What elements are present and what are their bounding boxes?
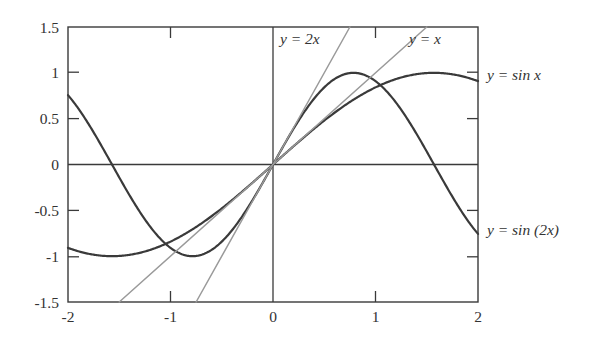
y-tick-label-6: -1.5	[34, 294, 59, 311]
x-tick-label-1: -1	[164, 308, 177, 325]
y-tick-label-4: -0.5	[34, 202, 59, 219]
y-tick-label-5: -1	[46, 248, 59, 265]
y-tick-label-2: 0.5	[40, 110, 60, 127]
y-tick-label-1: 1	[51, 64, 59, 81]
x-tick-label-2: 0	[269, 308, 277, 325]
plot-svg: -2 -1 0 1 2 1.5 1 0.5 0 -0.5 -1 -1.5 y =…	[0, 0, 608, 349]
y-tick-label-3: 0	[51, 156, 59, 173]
x-tick-label-0: -2	[62, 308, 75, 325]
label-y-sin-x: y = sin x	[485, 66, 541, 83]
label-y-sin-2x: y = sin (2x)	[485, 221, 559, 239]
figure-canvas: -2 -1 0 1 2 1.5 1 0.5 0 -0.5 -1 -1.5 y =…	[0, 0, 608, 349]
x-tick-label-3: 1	[372, 308, 380, 325]
y-tick-label-0: 1.5	[40, 19, 60, 36]
label-y-2x: y = 2x	[278, 30, 320, 47]
label-y-x: y = x	[407, 30, 441, 47]
x-tick-label-4: 2	[474, 308, 482, 325]
